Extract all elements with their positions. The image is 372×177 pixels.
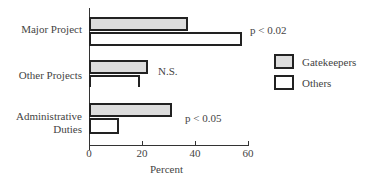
x-axis-label: Percent xyxy=(150,163,183,175)
category-label-major-project: Major Project xyxy=(0,23,82,36)
legend-swatch-gatekeepers xyxy=(274,54,294,69)
tick-40 xyxy=(195,141,196,146)
tick-label-40: 40 xyxy=(180,147,210,159)
tick-label-20: 20 xyxy=(127,147,157,159)
tick-label-60: 60 xyxy=(233,147,263,159)
bar-other-others xyxy=(89,75,140,87)
category-label-other-projects: Other Projects xyxy=(0,69,82,82)
legend-label-others: Others xyxy=(302,77,331,89)
bar-other-gatekeepers xyxy=(89,60,148,74)
bar-major-gatekeepers xyxy=(89,17,188,31)
x-axis xyxy=(89,145,249,146)
tick-20 xyxy=(142,141,143,146)
bar-admin-others xyxy=(89,118,119,134)
bar-major-others xyxy=(89,32,242,46)
legend-swatch-others xyxy=(274,75,294,90)
category-label-duties: Duties xyxy=(0,123,82,136)
tick-60 xyxy=(248,141,249,146)
legend-label-gatekeepers: Gatekeepers xyxy=(302,56,356,68)
annotation-major: p < 0.02 xyxy=(250,24,286,36)
tick-label-0: 0 xyxy=(74,147,104,159)
bar-admin-gatekeepers xyxy=(89,103,172,117)
category-label-administrative: Administrative xyxy=(0,110,82,123)
annotation-admin: p < 0.05 xyxy=(185,112,221,124)
annotation-other: N.S. xyxy=(158,65,178,77)
